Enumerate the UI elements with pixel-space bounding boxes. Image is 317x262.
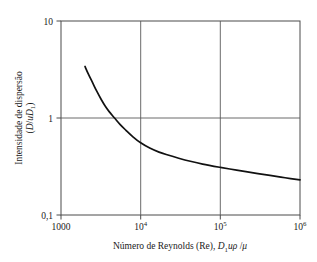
y-axis-title-line1: Intensidade de dispersão	[14, 71, 24, 165]
chart-background	[0, 0, 317, 262]
chart-figure: 1000 104 105 106 10 1 0,1 Número de Reyn…	[0, 0, 317, 262]
xtick-label-1000: 1000	[52, 222, 71, 232]
ytick-label-10: 10	[44, 17, 54, 27]
ytick-label-01: 0,1	[41, 211, 53, 221]
x-axis-title: Número de Reynolds (Re), D1uρ /μ	[113, 241, 247, 253]
ytick-label-1: 1	[48, 114, 53, 124]
chart-svg: 1000 104 105 106 10 1 0,1 Número de Reyn…	[0, 0, 317, 262]
